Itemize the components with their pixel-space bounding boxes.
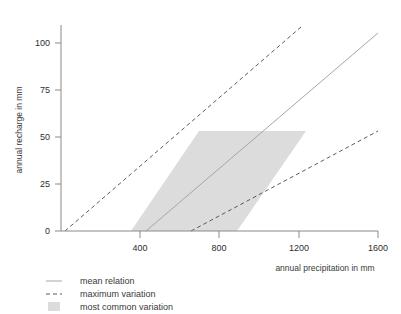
y-tick-label-50: 50 (40, 132, 50, 142)
recharge-precipitation-chart: 100 75 50 25 0 400 800 1200 1600 annual … (0, 0, 401, 314)
chart-figure: 100 75 50 25 0 400 800 1200 1600 annual … (0, 0, 401, 314)
y-axis-title: annual recharge in mm (14, 87, 24, 174)
legend-marker-most-common-variation (48, 302, 60, 311)
y-tick-label-100: 100 (35, 38, 50, 48)
y-tick-label-0: 0 (45, 226, 50, 236)
x-axis-title: annual precipitation in mm (275, 263, 374, 273)
legend-label-most-common-variation: most common variation (80, 302, 173, 312)
x-tick-label-1600: 1600 (368, 243, 388, 253)
x-tick-label-800: 800 (211, 243, 226, 253)
chart-legend: mean relation maximum variation most com… (46, 276, 173, 312)
y-tick-label-75: 75 (40, 85, 50, 95)
y-tick-label-25: 25 (40, 179, 50, 189)
legend-label-mean-relation: mean relation (80, 276, 135, 286)
x-tick-label-400: 400 (132, 243, 147, 253)
legend-label-maximum-variation: maximum variation (80, 289, 156, 299)
x-tick-label-1200: 1200 (289, 243, 309, 253)
